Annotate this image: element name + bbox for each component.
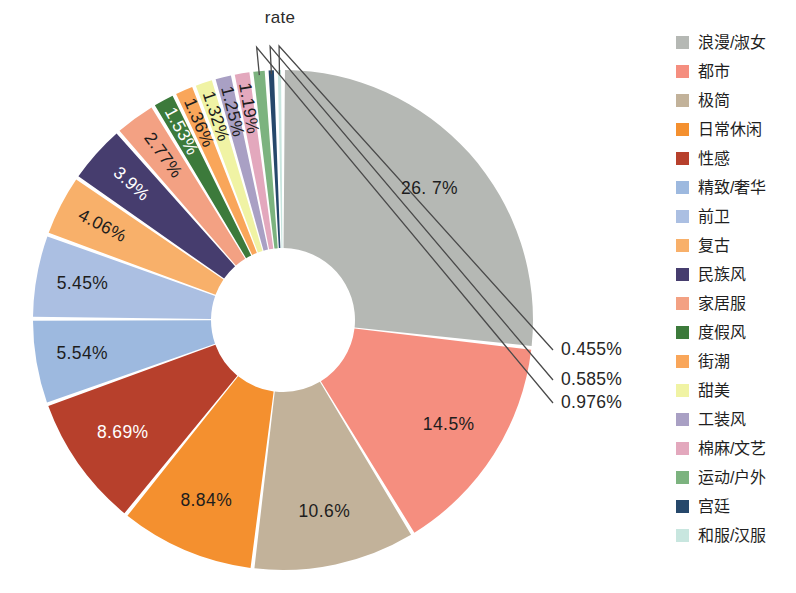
legend-item[interactable]: 和服/汉服: [676, 521, 796, 550]
legend-item[interactable]: 甜美: [676, 376, 796, 405]
legend-item[interactable]: 运动/户外: [676, 463, 796, 492]
legend-item[interactable]: 都市: [676, 57, 796, 86]
legend-item-label: 复古: [698, 238, 730, 254]
legend-color-swatch: [676, 36, 689, 49]
legend-item-label: 棉麻/文艺: [698, 441, 766, 457]
legend-item-label: 宫廷: [698, 499, 730, 515]
legend-item-label: 工装风: [698, 412, 746, 428]
legend-color-swatch: [676, 65, 689, 78]
slices-group: [33, 70, 533, 570]
legend-item-label: 运动/户外: [698, 470, 766, 486]
legend-item[interactable]: 前卫: [676, 202, 796, 231]
legend-item[interactable]: 街潮: [676, 347, 796, 376]
legend-item[interactable]: 宫廷: [676, 492, 796, 521]
legend-item-label: 精致/奢华: [698, 180, 766, 196]
legend-item[interactable]: 棉麻/文艺: [676, 434, 796, 463]
slice-value-label: 5.54%: [56, 343, 108, 363]
legend-item-label: 性感: [698, 151, 730, 167]
legend-color-swatch: [676, 123, 689, 136]
legend-color-swatch: [676, 500, 689, 513]
slice-value-label: 5.45%: [57, 273, 109, 293]
slice-value-label: 0.585%: [561, 369, 622, 389]
chart-page: rate 26. 7%14.5%10.6%8.84%8.69%5.54%5.45…: [0, 0, 796, 593]
legend-color-swatch: [676, 413, 689, 426]
slice-value-label: 10.6%: [298, 501, 350, 521]
legend-item-label: 和服/汉服: [698, 528, 766, 544]
legend-item[interactable]: 性感: [676, 144, 796, 173]
slice-value-label: 26. 7%: [401, 178, 458, 198]
legend-item-label: 浪漫/淑女: [698, 35, 766, 51]
legend: 浪漫/淑女都市极简日常休闲性感精致/奢华前卫复古民族风家居服度假风街潮甜美工装风…: [676, 28, 796, 550]
legend-color-swatch: [676, 471, 689, 484]
donut-chart: 26. 7%14.5%10.6%8.84%8.69%5.54%5.45%4.06…: [0, 0, 640, 593]
legend-color-swatch: [676, 210, 689, 223]
slice-value-label: 8.69%: [97, 422, 149, 442]
legend-color-swatch: [676, 152, 689, 165]
legend-item[interactable]: 浪漫/淑女: [676, 28, 796, 57]
legend-item-label: 日常休闲: [698, 122, 762, 138]
legend-color-swatch: [676, 297, 689, 310]
pie-slice[interactable]: [284, 70, 533, 346]
legend-item-label: 度假风: [698, 325, 746, 341]
legend-item[interactable]: 工装风: [676, 405, 796, 434]
legend-color-swatch: [676, 384, 689, 397]
slice-value-label: 0.455%: [561, 339, 622, 359]
slice-value-label: 14.5%: [423, 414, 475, 434]
slice-value-label: 0.976%: [561, 392, 622, 412]
legend-item-label: 甜美: [698, 383, 730, 399]
legend-color-swatch: [676, 355, 689, 368]
legend-color-swatch: [676, 239, 689, 252]
legend-item[interactable]: 度假风: [676, 318, 796, 347]
legend-item-label: 极简: [698, 93, 730, 109]
legend-item[interactable]: 家居服: [676, 289, 796, 318]
legend-color-swatch: [676, 181, 689, 194]
legend-color-swatch: [676, 268, 689, 281]
legend-item-label: 街潮: [698, 354, 730, 370]
legend-color-swatch: [676, 442, 689, 455]
donut-chart-area: rate 26. 7%14.5%10.6%8.84%8.69%5.54%5.45…: [0, 0, 640, 593]
legend-item[interactable]: 极简: [676, 86, 796, 115]
legend-item[interactable]: 精致/奢华: [676, 173, 796, 202]
legend-item-label: 都市: [698, 64, 730, 80]
legend-item[interactable]: 日常休闲: [676, 115, 796, 144]
legend-item[interactable]: 民族风: [676, 260, 796, 289]
legend-item-label: 家居服: [698, 296, 746, 312]
legend-color-swatch: [676, 529, 689, 542]
slice-value-label: 8.84%: [180, 490, 232, 510]
legend-item-label: 民族风: [698, 267, 746, 283]
legend-color-swatch: [676, 326, 689, 339]
legend-item-label: 前卫: [698, 209, 730, 225]
legend-item[interactable]: 复古: [676, 231, 796, 260]
legend-color-swatch: [676, 94, 689, 107]
